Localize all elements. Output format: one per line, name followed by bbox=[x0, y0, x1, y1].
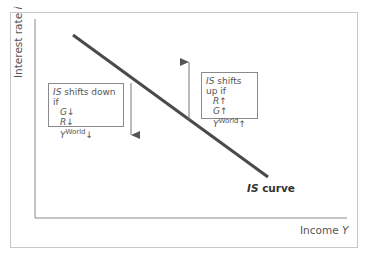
shift-up-item: G↑ bbox=[206, 106, 253, 116]
shift-up-title: IS shifts up if bbox=[206, 76, 253, 96]
y-axis-label: Interest rate i bbox=[12, 7, 24, 78]
shift-down-item: G↓ bbox=[53, 107, 119, 117]
shift-up-box: IS shifts up if R↑ G↑ YWorld↑ bbox=[201, 72, 258, 119]
shift-up-item: R↑ bbox=[206, 96, 253, 106]
shift-down-title: IS shifts down if bbox=[53, 87, 119, 107]
x-axis-label: Income Y bbox=[300, 224, 348, 236]
shift-down-item: R↓ bbox=[53, 117, 119, 127]
is-curve-label: IS curve bbox=[247, 182, 295, 194]
shift-down-item: YWorld↓ bbox=[53, 127, 119, 140]
shift-down-box: IS shifts down if G↓ R↓ YWorld↓ bbox=[48, 83, 124, 127]
shift-up-item: YWorld↑ bbox=[206, 116, 253, 129]
